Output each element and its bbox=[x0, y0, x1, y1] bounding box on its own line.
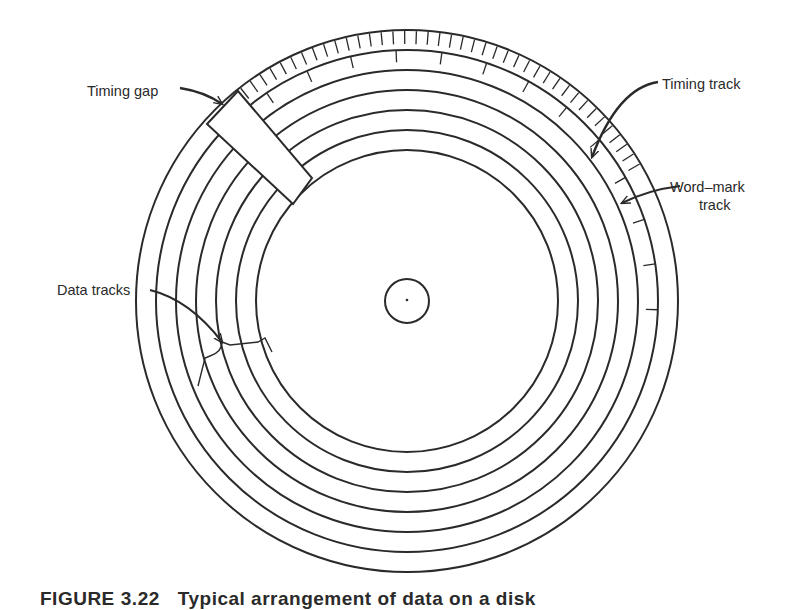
word-mark-track-ticks bbox=[267, 50, 658, 310]
tick-mark bbox=[562, 85, 570, 95]
tick-mark bbox=[559, 107, 567, 116]
tick-mark bbox=[595, 117, 605, 126]
tick-mark bbox=[396, 50, 397, 62]
tick-mark bbox=[523, 81, 529, 91]
tick-mark bbox=[260, 75, 267, 86]
tick-mark bbox=[553, 78, 560, 89]
tick-mark bbox=[615, 177, 625, 183]
data-tracks-label: Data tracks bbox=[57, 283, 130, 298]
timing-gap-label: Timing gap bbox=[87, 84, 158, 99]
tick-mark bbox=[351, 56, 354, 68]
tick-mark bbox=[460, 37, 463, 50]
tick-mark bbox=[482, 43, 486, 55]
tick-mark bbox=[587, 108, 596, 117]
caption-number: 3.22 bbox=[121, 588, 160, 609]
tick-mark bbox=[440, 52, 442, 64]
tick-mark bbox=[324, 44, 328, 56]
tick-mark bbox=[393, 31, 394, 44]
tick-mark bbox=[623, 154, 634, 161]
tick-mark bbox=[579, 100, 588, 110]
tick-mark bbox=[280, 63, 286, 74]
tick-mark bbox=[346, 38, 349, 51]
tick-mark bbox=[534, 66, 540, 77]
caption-prefix: FIGURE bbox=[40, 588, 115, 609]
figure-caption: FIGURE3.22Typical arrangement of data on… bbox=[40, 588, 536, 610]
tick-mark bbox=[427, 32, 428, 45]
tick-mark bbox=[514, 55, 519, 67]
tick-mark bbox=[369, 34, 371, 47]
tick-mark bbox=[610, 135, 620, 143]
data-tracks-arrow bbox=[150, 290, 222, 342]
tick-mark bbox=[381, 32, 382, 45]
timing-track-label: Timing track bbox=[662, 77, 740, 92]
timing-gap-wedge bbox=[207, 91, 312, 204]
tick-mark bbox=[570, 93, 578, 103]
tick-mark bbox=[335, 41, 338, 54]
word-mark-label-line2: track bbox=[699, 198, 730, 213]
tick-mark bbox=[312, 48, 317, 60]
tick-mark bbox=[291, 57, 297, 69]
tick-mark bbox=[633, 219, 644, 223]
tick-mark bbox=[524, 60, 530, 72]
tick-mark bbox=[471, 40, 474, 53]
word-mark-label-line1: Word–mark bbox=[670, 180, 745, 195]
tick-mark bbox=[543, 72, 550, 83]
tick-mark bbox=[449, 35, 451, 48]
tick-mark bbox=[483, 63, 487, 74]
tick-mark bbox=[270, 68, 277, 79]
caption-text: Typical arrangement of data on a disk bbox=[178, 588, 536, 609]
tick-mark bbox=[267, 93, 274, 103]
tick-mark bbox=[438, 33, 440, 46]
tick-mark bbox=[302, 52, 307, 64]
hub-center-dot bbox=[406, 299, 409, 302]
tick-mark bbox=[616, 144, 627, 152]
tick-mark bbox=[250, 81, 258, 92]
tick-mark bbox=[643, 264, 655, 266]
tick-mark bbox=[493, 46, 497, 58]
tick-mark bbox=[358, 36, 360, 49]
timing-gap-arrow bbox=[180, 88, 222, 104]
tick-mark bbox=[628, 164, 639, 171]
tick-mark bbox=[307, 71, 312, 82]
tick-mark bbox=[503, 51, 508, 63]
